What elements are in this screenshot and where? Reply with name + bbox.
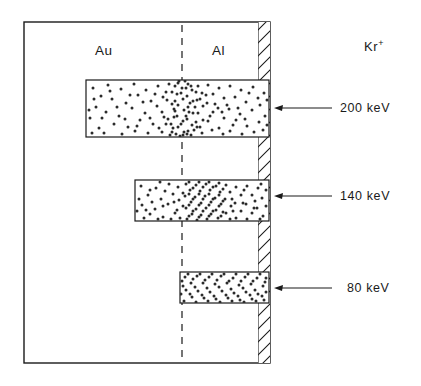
layer-label-au: Au [95, 44, 113, 58]
leader-arrow-80kev [274, 285, 332, 291]
distribution-box-140kev [135, 180, 269, 222]
energy-label-200kev: 200 keV [340, 102, 390, 115]
ion-species-symbol: Kr [364, 39, 378, 54]
leader-arrow-200kev [274, 105, 332, 111]
leader-arrow-140kev [274, 193, 332, 199]
distribution-box-200kev [86, 80, 269, 138]
energy-label-80kev: 80 keV [347, 282, 390, 295]
ion-species-label: Kr+ [364, 39, 383, 53]
ion-charge-superscript: + [378, 38, 383, 48]
energy-label-140kev: 140 keV [340, 190, 390, 203]
distribution-box-80kev [180, 272, 270, 304]
layer-label-al: Al [212, 44, 225, 58]
implantation-diagram: Au Al Kr+ 200 keV 140 keV 80 keV [0, 0, 421, 386]
